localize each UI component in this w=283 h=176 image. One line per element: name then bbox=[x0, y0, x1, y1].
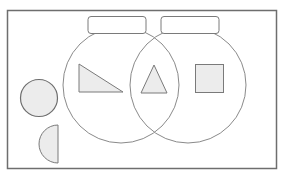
square-shape[interactable] bbox=[196, 65, 224, 93]
right-label-box[interactable] bbox=[161, 17, 219, 34]
right-set-label-box[interactable] bbox=[161, 17, 219, 34]
left-label-box[interactable] bbox=[88, 17, 146, 34]
left-set-label-box[interactable] bbox=[88, 17, 146, 34]
venn-diagram bbox=[0, 0, 283, 176]
circle-shape[interactable] bbox=[21, 80, 58, 117]
